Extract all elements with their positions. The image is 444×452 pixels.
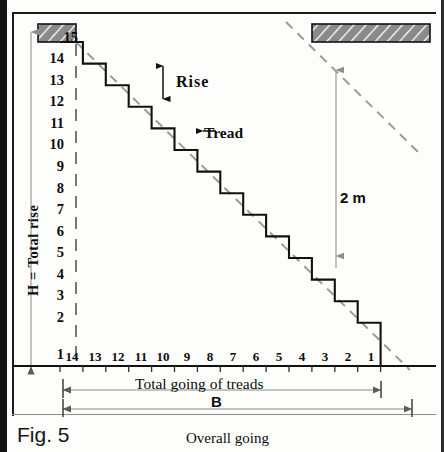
headroom-dimension-label: 2 m bbox=[340, 190, 366, 205]
ceiling-slab bbox=[312, 24, 430, 42]
tread-label: 5 bbox=[269, 350, 289, 363]
riser-label: 2 bbox=[42, 310, 64, 325]
figure-page: 15 14 13 12 11 10 9 8 7 6 5 4 3 2 1 14 1… bbox=[0, 0, 444, 452]
tread-label: 10 bbox=[153, 350, 173, 363]
riser-label: 9 bbox=[42, 159, 64, 174]
tread-label: 14 bbox=[62, 350, 82, 363]
staircase-profile bbox=[60, 42, 381, 366]
riser-label: 12 bbox=[42, 94, 64, 109]
tread-label: 13 bbox=[85, 350, 105, 363]
riser-label: 1 bbox=[42, 347, 64, 362]
tread-label: 11 bbox=[131, 350, 151, 363]
riser-label: 3 bbox=[42, 288, 64, 303]
tread-label: 9 bbox=[177, 350, 197, 363]
figure-caption: Overall going bbox=[186, 431, 269, 446]
tread-label: 3 bbox=[315, 350, 335, 363]
tread-label: 7 bbox=[223, 350, 243, 363]
tread-annotation-label: Tread bbox=[204, 125, 243, 141]
riser-label: 10 bbox=[42, 137, 64, 152]
total-going-dimension-label: Total going of treads bbox=[135, 376, 263, 392]
overall-going-dimension-label: B bbox=[211, 394, 222, 409]
figure-number: Fig. 5 bbox=[17, 424, 70, 445]
tread-label: 1 bbox=[361, 350, 381, 363]
total-rise-axis-label: H = Total rise bbox=[26, 190, 41, 310]
dimension-overall-going bbox=[63, 399, 412, 417]
riser-label: 13 bbox=[42, 73, 64, 88]
riser-label: 6 bbox=[42, 224, 64, 239]
rise-annotation-label: Rise bbox=[176, 74, 209, 90]
tread-label: 12 bbox=[108, 350, 128, 363]
tread-label: 6 bbox=[246, 350, 266, 363]
riser-label: 7 bbox=[42, 202, 64, 217]
tread-label: 2 bbox=[338, 350, 358, 363]
riser-label: 8 bbox=[42, 181, 64, 196]
riser-label: 5 bbox=[42, 245, 64, 260]
tread-label: 4 bbox=[292, 350, 312, 363]
riser-label: 11 bbox=[42, 116, 64, 131]
riser-label: 14 bbox=[42, 51, 64, 66]
tread-label: 8 bbox=[200, 350, 220, 363]
riser-label: 15 bbox=[56, 30, 78, 45]
riser-label: 4 bbox=[42, 267, 64, 282]
